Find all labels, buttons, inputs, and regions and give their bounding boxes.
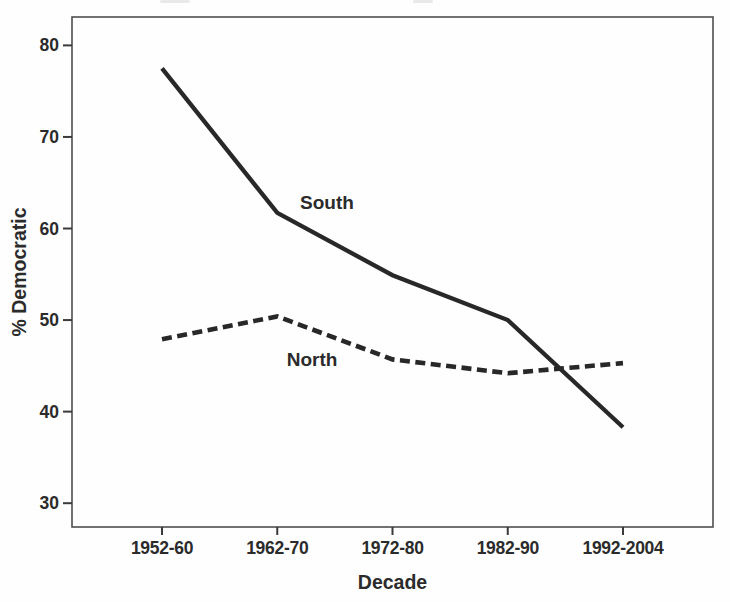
y-axis-title: % Democratic: [8, 207, 30, 336]
x-axis-title: Decade: [358, 571, 428, 593]
y-tick-label: 70: [40, 127, 60, 147]
chart-page: 3040506070801952-601962-701972-801982-90…: [0, 0, 730, 602]
y-tick-label: 50: [40, 310, 60, 330]
y-tick-label: 30: [40, 493, 60, 513]
line-chart: 3040506070801952-601962-701972-801982-90…: [0, 0, 730, 602]
series-label-south: South: [300, 192, 354, 213]
series-label-north: North: [287, 349, 338, 370]
y-tick-label: 40: [40, 402, 60, 422]
x-tick-label: 1982-90: [477, 538, 540, 558]
plot-border: [72, 17, 713, 527]
y-tick-label: 60: [40, 219, 60, 239]
x-tick-label: 1962-70: [246, 538, 309, 558]
x-tick-label: 1952-60: [131, 538, 194, 558]
y-tick-label: 80: [40, 35, 60, 55]
series-line-south: [162, 68, 623, 427]
x-tick-label: 1972-80: [361, 538, 424, 558]
x-tick-label: 1992-2004: [583, 538, 665, 558]
